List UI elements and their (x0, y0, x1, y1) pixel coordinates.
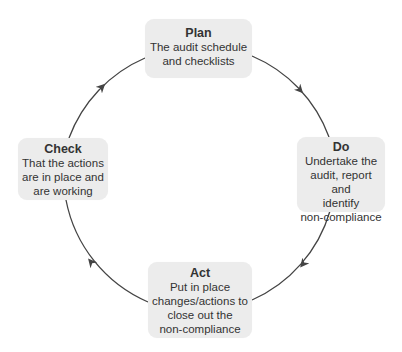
stage-desc-line: audit, report and (300, 168, 382, 196)
stage-desc-line: Undertake the (300, 154, 382, 168)
stage-desc-line: The audit schedule (148, 40, 249, 54)
stage-desc-line: are in place and (21, 170, 105, 184)
stage-desc-line: That the actions (21, 156, 105, 170)
stage-desc-line: close out the (151, 308, 249, 322)
stage-title: Act (151, 266, 249, 280)
stage-title: Do (300, 140, 382, 154)
stage-desc-line: Put in place (151, 280, 249, 294)
stage-do: Do Undertake the audit, report and ident… (297, 137, 385, 212)
arrow-do-to-act (252, 211, 330, 300)
arrow-plan-to-do (252, 56, 329, 137)
arrow-check-to-plan (69, 58, 145, 138)
stage-check: Check That the actions are in place and … (18, 138, 108, 200)
stage-plan: Plan The audit schedule and checklists (145, 19, 252, 78)
stage-desc-line: and checklists (148, 54, 249, 68)
stage-desc-line: non-compliance (151, 322, 249, 336)
arrow-act-to-check (66, 200, 148, 302)
stage-act: Act Put in place changes/actions to clos… (148, 262, 252, 338)
stage-desc-line: non-compliance (300, 210, 382, 224)
stage-title: Check (21, 142, 105, 156)
stage-desc-line: changes/actions to (151, 294, 249, 308)
stage-desc-line: identify (300, 196, 382, 210)
stage-desc-line: are working (21, 184, 105, 198)
stage-title: Plan (148, 26, 249, 40)
